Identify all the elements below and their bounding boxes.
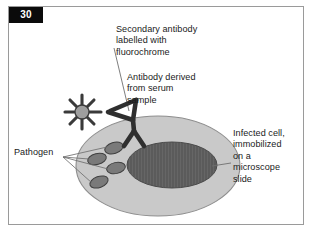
cell-nucleus xyxy=(127,142,217,188)
label-antibody-from-serum: Antibody derived from serum sample xyxy=(127,72,196,106)
fluorochrome-star xyxy=(65,95,101,129)
label-pathogen: Pathogen xyxy=(14,147,53,158)
label-secondary-antibody: Secondary antibody labelled with fluoroc… xyxy=(116,24,197,58)
figure-root: 30 xyxy=(0,0,313,234)
label-infected-cell: Infected cell, immobilized on a microsco… xyxy=(233,128,285,185)
fluorochrome-core xyxy=(75,105,89,119)
